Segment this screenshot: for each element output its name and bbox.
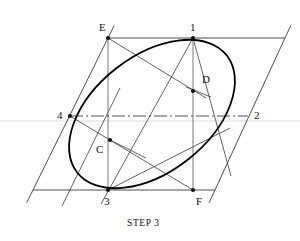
point-dot-f [191,188,195,192]
point-dot-e [106,36,110,40]
point-label-e: E [99,22,106,33]
point-label-d: D [202,74,210,85]
point-label-f: F [196,196,202,207]
point-label-c: C [96,144,103,155]
point-label-4: 4 [57,110,63,121]
point-label-3: 3 [104,196,110,207]
figure-caption: STEP 3 [127,218,160,228]
point-dot-3 [106,188,110,192]
point-label-2: 2 [254,110,260,121]
point-dot-1 [191,36,195,40]
point-dot-d [191,89,195,93]
geometric-construction-figure: E1423FCD STEP 3 [0,0,300,241]
point-label-1: 1 [190,22,196,33]
point-dot-4 [68,114,72,118]
point-dot-c [108,138,112,142]
